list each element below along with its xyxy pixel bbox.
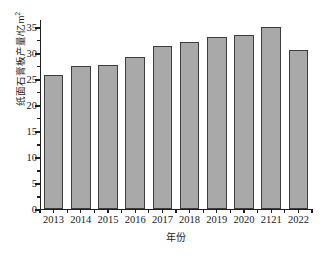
x-tick xyxy=(107,209,108,213)
x-tick-edge xyxy=(203,209,204,213)
plot-area: 05101520253035 2013201420152016201720182… xyxy=(40,20,312,210)
y-tick-minor xyxy=(37,66,40,67)
y-tick-minor xyxy=(37,144,40,145)
y-tick-minor xyxy=(37,118,40,119)
bar xyxy=(207,37,227,210)
x-tick-label: 2016 xyxy=(125,214,146,225)
x-tick-edge xyxy=(121,209,122,213)
x-tick-label: 2018 xyxy=(179,214,200,225)
y-tick-minor xyxy=(37,92,40,93)
y-tick-minor xyxy=(37,40,40,41)
x-tick xyxy=(80,209,81,213)
x-tick-edge xyxy=(67,209,68,213)
y-axis-line xyxy=(40,20,41,210)
x-tick xyxy=(162,209,163,213)
x-tick-label: 2020 xyxy=(234,214,255,225)
bar xyxy=(44,75,64,209)
x-tick-edge xyxy=(230,209,231,213)
x-tick xyxy=(216,209,217,213)
y-tick-minor xyxy=(37,196,40,197)
x-tick xyxy=(298,209,299,213)
bar xyxy=(71,66,91,209)
bar xyxy=(180,42,200,209)
bar xyxy=(125,57,145,209)
x-tick-edge xyxy=(257,209,258,213)
bar-chart: 纸面石膏板产量/亿m2 05101520253035 2013201420152… xyxy=(0,0,322,257)
x-tick-edge xyxy=(94,209,95,213)
x-axis-title: 年份 xyxy=(40,232,312,244)
x-tick-label: 2014 xyxy=(70,214,91,225)
x-tick-edge xyxy=(284,209,285,213)
x-tick-label: 2019 xyxy=(206,214,227,225)
bar xyxy=(153,46,173,209)
bar xyxy=(234,35,254,209)
y-tick-label: 35 xyxy=(27,23,38,34)
y-tick-label: 25 xyxy=(27,75,38,86)
x-tick-label: 2121 xyxy=(261,214,282,225)
x-tick-edge xyxy=(148,209,149,213)
x-tick-edge xyxy=(39,209,40,213)
x-tick xyxy=(243,209,244,213)
y-axis-title-superscript: 2 xyxy=(14,12,21,16)
bar xyxy=(98,65,118,209)
y-axis-title-text: 纸面石膏板产量/亿m xyxy=(15,16,26,107)
y-tick-label: 10 xyxy=(27,153,38,164)
y-tick-label: 5 xyxy=(32,179,37,190)
x-tick xyxy=(53,209,54,213)
bar xyxy=(289,50,309,210)
x-tick xyxy=(135,209,136,213)
x-tick-edge xyxy=(311,209,312,213)
x-tick-label: 2017 xyxy=(152,214,173,225)
x-tick-label: 2015 xyxy=(98,214,119,225)
y-tick-label: 20 xyxy=(27,101,38,112)
y-axis-title: 纸面石膏板产量/亿m2 xyxy=(12,0,26,134)
x-tick-label: 2022 xyxy=(288,214,309,225)
x-tick xyxy=(271,209,272,213)
x-tick-edge xyxy=(175,209,176,213)
y-tick-label: 15 xyxy=(27,127,38,138)
y-tick-label: 30 xyxy=(27,49,38,60)
y-tick-minor xyxy=(37,170,40,171)
y-tick-label: 0 xyxy=(32,205,37,216)
bar xyxy=(261,27,281,210)
x-tick-label: 2013 xyxy=(43,214,64,225)
x-tick xyxy=(189,209,190,213)
